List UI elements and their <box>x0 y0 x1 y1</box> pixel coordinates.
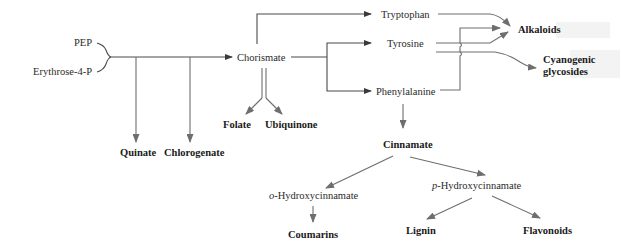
edge-to-tyrosine <box>327 43 371 57</box>
node-cinnamate: Cinnamate <box>383 139 433 150</box>
node-cyanogenic-1: Cyanogenic <box>543 54 596 65</box>
edge-to-o-hydroxycinnamate <box>326 156 393 188</box>
node-chlorogenate: Chlorogenate <box>164 147 225 158</box>
node-phenylalanine: Phenylalanine <box>376 86 436 97</box>
alkaloids-highlight <box>556 22 610 38</box>
node-tyrosine: Tyrosine <box>387 38 424 49</box>
edge-tyrosine-cyanogenic <box>436 52 536 68</box>
node-flavonoids: Flavonoids <box>523 225 572 236</box>
substrate-brace <box>97 43 111 72</box>
node-chorismate: Chorismate <box>237 52 286 63</box>
edge-to-flavonoids <box>492 196 540 218</box>
edge-to-phenylalanine <box>327 57 371 91</box>
edge-phenylalanine-alkaloids <box>440 28 500 90</box>
node-p-hydroxycinnamate: p-Hydroxycinnamate <box>431 180 522 191</box>
node-tryptophan: Tryptophan <box>381 9 430 20</box>
pathway-diagram: PEP Erythrose-4-P Chorismate Tryptophan … <box>0 0 621 250</box>
node-cyanogenic-2: glycosides <box>543 66 588 77</box>
node-alkaloids: Alkaloids <box>518 24 561 35</box>
node-o-hydroxycinnamate: o-Hydroxycinnamate <box>269 190 359 201</box>
node-ubiquinone: Ubiquinone <box>265 119 318 130</box>
node-folate: Folate <box>223 119 251 130</box>
edge-tryptophan-alkaloids <box>438 14 510 26</box>
edge-tyrosine-alkaloids <box>436 32 508 43</box>
node-lignin: Lignin <box>406 225 436 236</box>
node-coumarins: Coumarins <box>288 229 338 240</box>
node-quinate: Quinate <box>120 147 157 158</box>
edge-to-folate-ubiquinone <box>246 68 282 114</box>
node-pep: PEP <box>74 37 92 48</box>
edge-to-p-hydroxycinnamate <box>410 157 485 175</box>
edge-to-tryptophan <box>257 14 371 44</box>
edge-to-lignin <box>427 198 472 219</box>
node-erythrose-4-p: Erythrose-4-P <box>33 66 92 77</box>
